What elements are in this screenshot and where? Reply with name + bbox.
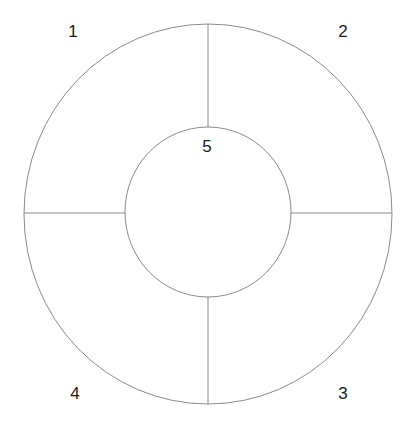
segment-label-3: 3 (338, 384, 347, 403)
segment-label-4: 4 (70, 384, 79, 403)
segment-label-5: 5 (202, 137, 211, 156)
segmented-ring-diagram: 1 2 3 4 5 (0, 0, 409, 424)
segment-label-1: 1 (68, 22, 77, 41)
segment-label-2: 2 (338, 22, 347, 41)
